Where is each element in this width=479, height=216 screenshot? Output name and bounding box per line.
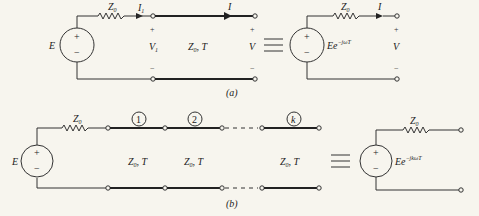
- wire-a-bottom-left: [77, 62, 153, 79]
- svg-text:+: +: [34, 147, 40, 158]
- svg-text:k: k: [291, 114, 296, 125]
- source-minus: −: [74, 47, 80, 58]
- svg-text:1: 1: [136, 114, 141, 125]
- series-impedance-label: Z0: [73, 113, 82, 125]
- terminal: [459, 188, 463, 192]
- svg-text:−: −: [150, 64, 155, 73]
- line-label: Z0, T: [188, 41, 209, 53]
- equivalent-voltage-label: V: [393, 41, 401, 52]
- svg-text:−: −: [394, 64, 399, 73]
- equivalent-impedance-label: Z0: [410, 115, 419, 127]
- source-label: E: [48, 40, 55, 51]
- svg-text:−: −: [304, 47, 310, 58]
- svg-text:+: +: [304, 31, 310, 42]
- terminal: [253, 14, 257, 18]
- transmission-line-diagram: + − E Z0 I1 + V1 − I Z0, T + V −: [0, 0, 479, 216]
- equivalence-icon: [331, 155, 350, 167]
- svg-text:−: −: [373, 163, 379, 174]
- svg-text:+: +: [373, 147, 379, 158]
- caption-b: (b): [226, 198, 238, 210]
- resistor-z0-icon: [62, 125, 107, 131]
- wire-eq-b-bottom: [376, 177, 459, 190]
- section-2-label: Z0, T: [184, 156, 205, 168]
- wire-a-top-left: [77, 16, 98, 28]
- resistor-z0-icon: [333, 13, 377, 19]
- equivalent-source-label: Ee−jωT: [326, 39, 351, 51]
- svg-text:+: +: [250, 25, 255, 34]
- output-voltage-label: V: [249, 41, 257, 52]
- series-impedance-label: Z0: [108, 1, 117, 13]
- terminal: [151, 77, 155, 81]
- section-1-label: Z0, T: [128, 156, 149, 168]
- output-current-label: I: [227, 1, 232, 12]
- wire-eq-a-bottom: [307, 62, 395, 79]
- source-label: E: [11, 156, 18, 167]
- terminal: [395, 77, 399, 81]
- terminal: [253, 77, 257, 81]
- figure-a: + − E Z0 I1 + V1 − I Z0, T + V −: [48, 1, 401, 99]
- wire-b-top-left: [37, 128, 62, 145]
- current-arrow-icon: [376, 13, 383, 19]
- equivalent-current-label: I: [377, 1, 382, 12]
- current-arrow-icon: [224, 12, 232, 20]
- svg-text:+: +: [150, 25, 155, 34]
- svg-text:+: +: [394, 25, 399, 34]
- figure-b: Z0 + − E 1 Z0, T 2 Z0, T k Z0, T: [11, 112, 463, 210]
- caption-a: (a): [226, 87, 238, 99]
- equivalent-source-label: Ee−jkωT: [394, 155, 422, 167]
- section-k-label: Z0, T: [280, 156, 301, 168]
- svg-text:2: 2: [192, 114, 197, 125]
- svg-text:−: −: [250, 64, 255, 73]
- wire-b-bottom-left: [37, 178, 107, 188]
- terminal: [459, 128, 463, 132]
- resistor-z0-icon: [98, 13, 137, 19]
- terminal: [395, 14, 399, 18]
- wire-eq-a-top: [307, 16, 333, 28]
- wire-eq-b-top: [376, 130, 403, 145]
- terminal: [151, 14, 155, 18]
- resistor-z0-icon: [403, 127, 459, 133]
- equivalence-icon: [264, 39, 283, 51]
- input-current-label: I1: [137, 2, 144, 14]
- source-plus: +: [74, 31, 80, 42]
- svg-text:−: −: [34, 163, 40, 174]
- input-voltage-label: V1: [149, 41, 158, 53]
- equivalent-impedance-label: Z0: [341, 1, 350, 13]
